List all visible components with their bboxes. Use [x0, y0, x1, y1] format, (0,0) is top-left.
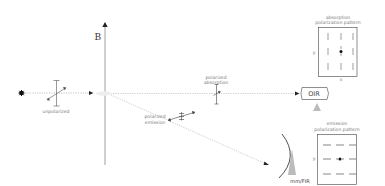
- emission-pattern-title-line1: emission: [327, 121, 347, 126]
- oir-label: OIR: [308, 90, 320, 98]
- absorption-pattern-title-line2: polarization pattern: [315, 20, 360, 25]
- emission-y-axis-label: y: [313, 156, 316, 161]
- polarized-emission-label-line2: emission: [145, 120, 165, 125]
- absorption-x-axis-label: x: [340, 77, 343, 82]
- absorption-pattern-panel: absorption polarization pattern y x: [313, 15, 361, 82]
- emission-polarization-icon: [168, 111, 195, 121]
- unpolarized-label: unpolarized: [43, 109, 70, 114]
- polarized-emission-label-line1: polarized: [144, 114, 165, 119]
- axis-arrowhead-icon: [102, 22, 107, 27]
- emission-pattern-title-line2: polarization pattern: [314, 127, 359, 132]
- mmfir-detector: mm/FIR: [279, 134, 310, 184]
- emission-beam: [111, 95, 269, 165]
- mmfir-arrowhead-icon: [264, 162, 270, 166]
- absorption-pattern-title-line1: absorption: [326, 15, 351, 20]
- light-source-star-icon: [19, 90, 25, 96]
- absorption-polarization-icon: [214, 85, 221, 105]
- interaction-region: [96, 91, 112, 95]
- axis-label-b: B: [95, 32, 102, 42]
- absorption-beam: [113, 92, 300, 96]
- emission-center-dot: [339, 158, 342, 161]
- incoming-beam: [25, 91, 94, 95]
- polarized-absorption-label-line1: polarized: [205, 75, 226, 80]
- mmfir-label: mm/FIR: [290, 178, 310, 184]
- absorption-y-axis-label: y: [313, 50, 316, 55]
- oir-detector: OIR: [301, 88, 329, 112]
- emission-pattern-panel: emission polarization pattern y: [313, 121, 360, 185]
- oir-arrowhead-icon: [295, 92, 300, 96]
- absorption-center-dot: [340, 50, 343, 53]
- beam-arrowhead-icon: [89, 91, 94, 95]
- zeeman-polarization-diagram: B unpolarized polarized absorption: [0, 0, 385, 186]
- oir-telescope-icon: [313, 103, 321, 111]
